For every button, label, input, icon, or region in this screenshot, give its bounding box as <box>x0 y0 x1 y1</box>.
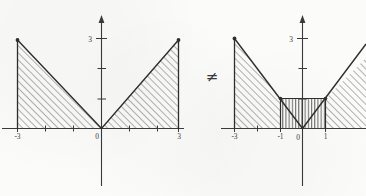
y-tick-label-3: 3 <box>289 35 293 44</box>
x-tick-label-zero: 0 <box>296 133 300 142</box>
vertex-marker <box>177 38 181 42</box>
vertex-marker <box>279 97 283 101</box>
x-tick-label-1: 1 <box>324 132 328 141</box>
x-tick-label-neg1: -1 <box>277 132 283 141</box>
y-tick-label-3: 3 <box>88 35 92 44</box>
y-axis-arrowhead <box>300 15 306 23</box>
x-tick-label-neg3: -3 <box>231 132 237 141</box>
left-diagonal-region <box>235 39 281 129</box>
x-tick-label-3: 3 <box>177 132 181 141</box>
right-diagonal-region <box>326 58 366 129</box>
vertex-marker <box>324 97 328 101</box>
not-equal-sign: ≠ <box>203 66 221 88</box>
x-tick-label-neg3: -3 <box>14 132 20 141</box>
chart-right: -3 -1 0 1 3 <box>183 0 366 196</box>
vertex-marker <box>16 38 20 42</box>
y-axis-arrowhead <box>99 15 105 23</box>
x-tick-label-zero: 0 <box>95 132 99 141</box>
figure-canvas: -3 0 3 3 <box>0 0 366 196</box>
chart-left: -3 0 3 3 <box>0 0 186 196</box>
center-vertical-region <box>281 99 326 129</box>
vertex-marker <box>233 37 237 41</box>
